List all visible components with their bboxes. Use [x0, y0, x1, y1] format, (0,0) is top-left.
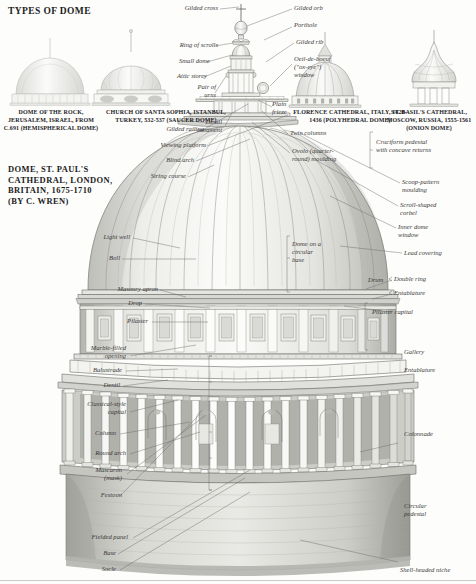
label-entablature-lower: Entablature: [404, 366, 476, 374]
label-cruciform-pedestal: Cruciform pedestal with concave returns: [376, 138, 476, 154]
thumb-st-basils-cathedral: [410, 30, 458, 106]
label-gilded-orb: Gilded orb: [294, 4, 372, 12]
label-drop: Drop: [80, 299, 142, 307]
label-dentil: Dentil: [62, 381, 120, 389]
label-viewing-platform: Viewing platform: [92, 141, 206, 149]
label-gilded-cross: Gilded cross: [130, 4, 218, 12]
label-column: Column: [46, 429, 116, 437]
label-entablature-upper: Entablature: [394, 289, 466, 297]
label-oeil-de-boeuf-window: Oeil-de-boeuf ("ox-eye") window: [294, 55, 374, 80]
footer-rule: [0, 580, 476, 581]
label-drum: Drum: [368, 276, 416, 284]
label-fielded-panel: Fielded panel: [34, 533, 128, 541]
label-classical-style-capital: Classical-style capital: [22, 400, 126, 416]
label-colonnade: Colonnade: [404, 430, 474, 438]
label-shell-headed-niche: Shell-headed niche: [400, 566, 476, 574]
label-ring-of-scrolls: Ring of scrolls: [122, 41, 218, 49]
label-twin-columns: Twin columns: [290, 129, 376, 137]
label-ovolo-moulding: Ovolo (quarter- round) moulding: [292, 147, 382, 163]
label-small-dome: Small dome: [122, 57, 210, 65]
label-pair-of-urns: Pair of urns: [148, 83, 216, 99]
label-festoon: Festoon: [48, 491, 122, 499]
label-gilded-railing: Gilded railing: [108, 125, 204, 133]
label-plain-frieze: Plain frieze: [272, 100, 318, 116]
page-title: DOME, ST. PAUL'S CATHEDRAL, LONDON, BRIT…: [8, 164, 113, 207]
label-circular-pedestal: Circular pedestal: [404, 502, 462, 518]
label-gallery: Gallery: [404, 348, 466, 356]
label-base: Base: [62, 549, 116, 557]
label-inner-dome-window: Inner dome window: [398, 223, 468, 239]
diagram-page: TYPES OF DOME DOME, ST. PAUL'S CATHEDRAL…: [0, 0, 476, 584]
section-title: TYPES OF DOME: [8, 6, 91, 18]
label-round-arch: Round arch: [34, 449, 126, 457]
label-socle: Socle: [60, 565, 116, 573]
thumb-dome-of-the-rock: [10, 38, 90, 105]
label-scroll-shaped-corbel: Scroll-shaped corbel: [400, 201, 470, 217]
label-string-course: String course: [82, 172, 186, 180]
label-blind-arch: Blind arch: [108, 156, 194, 164]
label-attic-storey: Attic storey: [122, 72, 207, 80]
label-light-well: Light well: [46, 233, 130, 241]
label-pilaster: Pilaster: [78, 317, 148, 325]
caption-st-basils-cathedral: ST. BASIL'S CATHEDRAL, MOSCOW, RUSSIA, 1…: [382, 108, 476, 132]
label-scoop-pattern-moulding: Scoop-pattern moulding: [402, 178, 476, 194]
label-balustrade: Balustrade: [36, 366, 122, 374]
label-dome-on-circular-base: Dome on a circular base: [292, 240, 352, 265]
label-masonry-apron: Masonry apron: [56, 285, 158, 293]
label-gilded-rib: Gilded rib: [296, 38, 366, 46]
label-pilaster-capital: Pilaster capital: [372, 308, 468, 316]
caption-dome-of-the-rock: DOME OF THE ROCK, JERUSALEM, ISRAEL, FRO…: [2, 108, 100, 132]
label-lead-covering: Lead covering: [404, 249, 476, 257]
label-mascaron-mask: Mascaron (mask): [40, 466, 122, 482]
label-marble-filled-opening: Marble-filled opening: [28, 344, 126, 360]
label-boll: Boll: [66, 254, 120, 262]
label-porthole: Porthole: [294, 21, 364, 29]
